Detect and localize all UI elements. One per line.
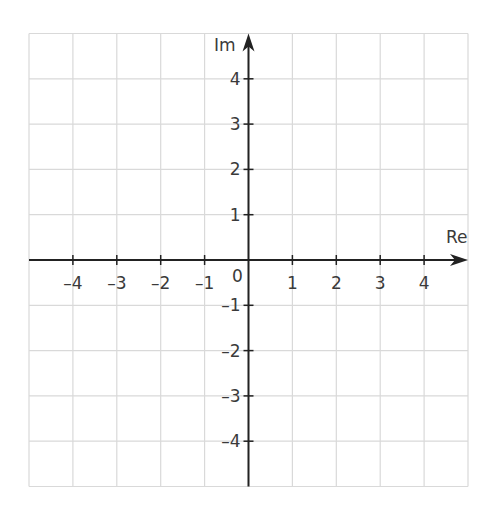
x-tick-label: –3	[107, 273, 126, 293]
x-tick-label: –1	[195, 273, 214, 293]
x-tick-label: 3	[375, 273, 386, 293]
x-tick-label: 1	[287, 273, 298, 293]
y-tick-label: –1	[221, 295, 240, 315]
x-tick-label: 2	[331, 273, 342, 293]
y-tick-label: 2	[230, 159, 241, 179]
x-tick-label: –2	[151, 273, 170, 293]
y-tick-label: 3	[230, 114, 241, 134]
argand-diagram: –4–3–2–112344321–1–2–3–4 Re Im 0	[0, 0, 483, 518]
y-tick-label: 1	[230, 205, 241, 225]
x-tick-label: –4	[63, 273, 82, 293]
y-tick-label: 4	[230, 69, 241, 89]
real-axis-label: Re	[446, 227, 468, 247]
x-tick-label: 4	[419, 273, 430, 293]
y-tick-label: –3	[221, 386, 240, 406]
origin-label: 0	[232, 266, 243, 286]
imaginary-axis-label: Im	[214, 35, 236, 55]
y-tick-label: –2	[221, 341, 240, 361]
y-tick-label: –4	[221, 431, 240, 451]
axes	[29, 34, 468, 487]
